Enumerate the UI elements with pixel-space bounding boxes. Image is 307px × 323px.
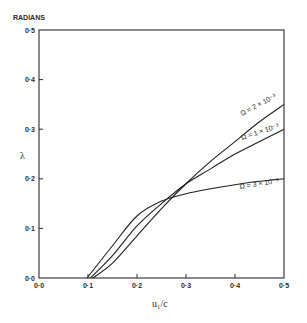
x-axis-ticks: 0·00·10·20·30·40·5 — [34, 274, 289, 289]
curve-series-3 — [87, 179, 284, 278]
y-unit-label: RADIANS — [13, 14, 45, 21]
y-tick-label: 0·5 — [25, 27, 35, 34]
x-tick-label: 0·5 — [279, 282, 289, 289]
x-axis-title: u₁/c — [152, 298, 168, 309]
curve-label-omega-1e-3: Ω = 1 × 10⁻³ — [240, 122, 280, 141]
x-tick-label: 0·0 — [34, 282, 44, 289]
x-tick-label: 0·4 — [230, 282, 240, 289]
plot-frame — [39, 30, 284, 278]
x-tick-label: 0·3 — [181, 282, 191, 289]
y-tick-label: 0·4 — [25, 76, 35, 83]
y-tick-label: 0·3 — [25, 126, 35, 133]
x-tick-label: 0·1 — [83, 282, 93, 289]
x-tick-label: 0·2 — [132, 282, 142, 289]
line-chart: RADIANS 0·00·10·20·30·40·5 0·00·10·20·30… — [0, 0, 307, 323]
curve-label-omega-3e-3: Ω = 3 × 10⁻³ — [239, 177, 279, 190]
y-tick-label: 0·2 — [25, 175, 35, 182]
y-tick-label: 0·0 — [25, 275, 35, 282]
y-axis-title: λ — [20, 150, 25, 161]
y-tick-label: 0·1 — [25, 225, 35, 232]
y-axis-ticks: 0·00·10·20·30·40·5 — [25, 27, 43, 282]
